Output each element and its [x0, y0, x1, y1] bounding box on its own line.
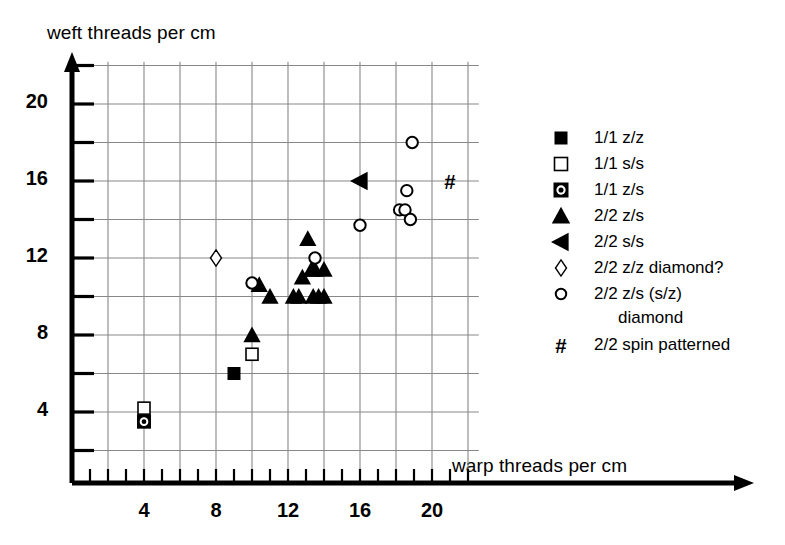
- x-tick-label: 20: [412, 499, 452, 522]
- y-tick-label: 20: [8, 90, 48, 113]
- legend-label: 1/1 z/s: [594, 180, 644, 200]
- filled-square-icon: [548, 126, 574, 150]
- x-tick-label: 8: [196, 499, 236, 522]
- hash-icon: #: [548, 333, 574, 357]
- legend-label: 2/2 z/s (s/z): [594, 284, 682, 304]
- filled-triangle-up-icon: [548, 204, 574, 228]
- y-tick-label: 12: [8, 244, 48, 267]
- legend-label: 1/1 s/s: [594, 154, 644, 174]
- legend-item: #2/2 spin patterned: [548, 333, 780, 359]
- x-tick-label: 4: [124, 499, 164, 522]
- legend-label: 2/2 z/z diamond?: [594, 258, 723, 278]
- legend-label: 1/1 z/z: [594, 128, 644, 148]
- dotted-square-icon: [548, 178, 574, 202]
- open-square-icon: [548, 152, 574, 176]
- tick-marks: [72, 66, 468, 484]
- y-tick-label: 8: [8, 321, 48, 344]
- legend-label: 2/2 spin patterned: [594, 335, 730, 355]
- legend-item: 1/1 z/s: [548, 178, 780, 204]
- legend-item: 2/2 z/s (s/z): [548, 282, 780, 308]
- legend-label-continuation: diamond: [548, 308, 780, 333]
- legend-label: 2/2 s/s: [594, 232, 644, 252]
- legend-item: 2/2 z/z diamond?: [548, 256, 780, 282]
- svg-text:#: #: [444, 171, 456, 193]
- x-tick-label: 12: [268, 499, 308, 522]
- x-tick-label: 16: [340, 499, 380, 522]
- legend-continuation-text: diamond: [618, 308, 683, 328]
- legend-item: 1/1 s/s: [548, 152, 780, 178]
- open-circle-icon: [548, 282, 574, 306]
- legend-item: 2/2 z/s: [548, 204, 780, 230]
- scatter-chart: weft threads per cm warp threads per cm …: [0, 0, 785, 545]
- legend-item: 1/1 z/z: [548, 126, 780, 152]
- open-diamond-icon: [548, 256, 574, 280]
- y-tick-label: 16: [8, 167, 48, 190]
- chart-legend: 1/1 z/z1/1 s/s1/1 z/s2/2 z/s2/2 s/s2/2 z…: [548, 126, 780, 359]
- filled-triangle-left-icon: [548, 230, 574, 254]
- legend-item: 2/2 s/s: [548, 230, 780, 256]
- y-tick-label: 4: [8, 398, 48, 421]
- legend-label: 2/2 z/s: [594, 206, 644, 226]
- svg-text:#: #: [555, 335, 567, 357]
